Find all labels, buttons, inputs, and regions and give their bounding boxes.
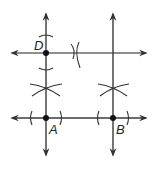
label-a: A <box>48 122 58 137</box>
arc-intersection-top <box>71 42 80 68</box>
construction-diagram: D A B <box>0 0 158 169</box>
point-d <box>43 50 49 56</box>
label-b: B <box>116 122 125 137</box>
label-d: D <box>34 38 43 53</box>
point-a <box>43 115 49 121</box>
point-b <box>110 115 116 121</box>
